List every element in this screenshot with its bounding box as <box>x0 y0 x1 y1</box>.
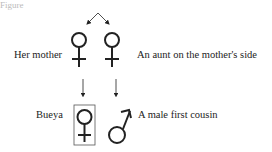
parent-branch-arrows <box>88 13 108 23</box>
descent-arrows <box>83 79 116 95</box>
cousin-male-icon <box>109 110 131 143</box>
label-aunt: An aunt on the mother's side <box>137 49 257 60</box>
mother-female-icon <box>72 33 86 67</box>
label-mother: Her mother <box>14 49 62 60</box>
aunt-female-icon <box>105 33 119 67</box>
label-cousin: A male first cousin <box>138 109 218 120</box>
ego-female-boxed-icon <box>74 105 95 145</box>
label-ego: Bueya <box>36 109 63 120</box>
kinship-diagram <box>0 0 272 152</box>
